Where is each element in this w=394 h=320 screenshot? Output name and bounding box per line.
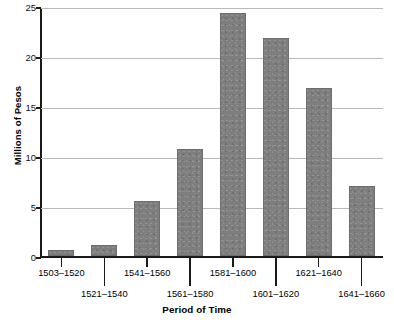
x-axis-title: Period of Time bbox=[0, 304, 394, 315]
y-tick-mark bbox=[36, 257, 41, 258]
y-tick-label: 5 bbox=[2, 203, 36, 213]
x-axis-line bbox=[40, 256, 383, 258]
bar bbox=[349, 186, 375, 256]
y-tick-label: 10 bbox=[2, 153, 36, 163]
x-tick-mark bbox=[61, 258, 63, 267]
bar bbox=[134, 201, 160, 257]
plot-area: 0510152025 bbox=[40, 8, 383, 258]
x-tick-label: 1621–1640 bbox=[276, 269, 362, 278]
x-tick-mark bbox=[232, 258, 234, 267]
x-tick-mark bbox=[146, 258, 148, 267]
y-tick-label: 20 bbox=[2, 53, 36, 63]
x-tick-label: 1521–1540 bbox=[61, 290, 147, 299]
x-tick-label: 1561–1580 bbox=[147, 290, 233, 299]
bar bbox=[91, 245, 117, 257]
y-tick-label: 0 bbox=[2, 253, 36, 263]
bar-chart: Millions of Pesos 0510152025 1503–152015… bbox=[0, 0, 394, 320]
x-tick-label: 1503–1520 bbox=[18, 269, 104, 278]
x-tick-label: 1601–1620 bbox=[233, 290, 319, 299]
x-tick-label: 1641–1660 bbox=[319, 290, 394, 299]
x-tick-label: 1541–1560 bbox=[104, 269, 190, 278]
bar bbox=[220, 13, 246, 256]
y-tick-label: 15 bbox=[2, 103, 36, 113]
bar bbox=[263, 38, 289, 256]
bars-layer bbox=[40, 8, 383, 256]
bar bbox=[177, 149, 203, 256]
x-tick-label: 1581–1600 bbox=[190, 269, 276, 278]
y-tick-label: 25 bbox=[2, 3, 36, 13]
bar bbox=[306, 88, 332, 257]
x-tick-mark bbox=[318, 258, 320, 267]
y-axis-title: Millions of Pesos bbox=[12, 66, 23, 186]
bar bbox=[48, 250, 74, 256]
